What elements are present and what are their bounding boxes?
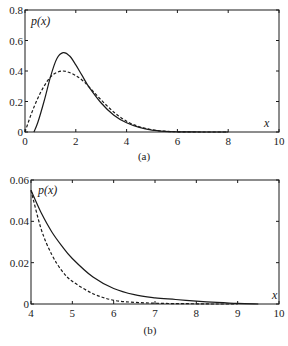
chart-a: 0246810 00.20.40.60.8 p(x) x (a) <box>9 4 285 163</box>
caption-b: (b) <box>144 324 157 337</box>
chart-b: 45678910 00.020.040.06 p(x) x (b) <box>10 174 285 337</box>
y-tick-label: 0.04 <box>10 215 30 227</box>
x-tick-label: 8 <box>225 135 231 147</box>
x-tick-label: 6 <box>175 135 181 147</box>
caption-a: (a) <box>138 150 151 163</box>
dashed-curve <box>31 190 238 304</box>
y-tick-label: 0.4 <box>9 65 23 77</box>
y-tick-label: 0.8 <box>9 4 23 16</box>
plot-area-b <box>31 180 279 304</box>
x-tick-label: 8 <box>194 307 200 319</box>
series-a <box>25 53 228 132</box>
y-axis-label-a: p(x) <box>30 14 50 28</box>
y-tick-label: 0.06 <box>10 174 30 186</box>
x-tick-label: 4 <box>28 307 34 319</box>
x-tick-label: 10 <box>274 307 286 319</box>
solid-curve <box>31 190 258 304</box>
y-tick-label: 0.6 <box>9 35 23 47</box>
x-ticks-a: 0246810 <box>22 10 285 147</box>
x-tick-label: 6 <box>111 307 117 319</box>
y-tick-label: 0.2 <box>9 96 23 108</box>
x-tick-label: 2 <box>73 135 79 147</box>
y-tick-label: 0 <box>24 298 30 310</box>
x-tick-label: 4 <box>124 135 130 147</box>
x-tick-label: 7 <box>152 307 158 319</box>
y-axis-label-b: p(x) <box>37 183 57 197</box>
x-tick-label: 5 <box>70 307 76 319</box>
y-tick-label: 0.02 <box>10 257 29 269</box>
figure: 0246810 00.20.40.60.8 p(x) x (a) 4567891… <box>0 0 288 346</box>
x-tick-label: 0 <box>22 135 28 147</box>
solid-curve <box>34 53 228 132</box>
x-axis-label-a: x <box>263 116 270 130</box>
x-tick-label: 10 <box>274 135 286 147</box>
x-tick-label: 9 <box>235 307 241 319</box>
series-b <box>31 190 258 304</box>
y-tick-label: 0 <box>18 126 24 138</box>
x-axis-label-b: x <box>271 288 278 302</box>
